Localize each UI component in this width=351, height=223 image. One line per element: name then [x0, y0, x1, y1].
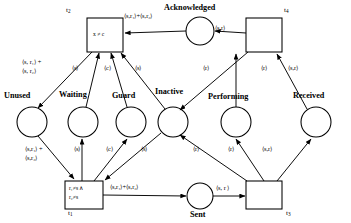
arc-t1-sent: [103, 195, 186, 196]
place-label-received: Received: [293, 92, 324, 101]
arc-label-t2-unused-line1: ⟨s, r₁⟩ +: [22, 59, 41, 66]
transition-inscription-t2: x ≠ c: [93, 31, 104, 38]
transition-name-t1: t1: [68, 210, 73, 218]
arc-label-t1-waiting: ⟨s⟩: [74, 146, 81, 153]
arc-label-waiting-t2: ⟨s⟩: [72, 65, 79, 72]
diagram-canvas: [0, 0, 351, 223]
place-label-performing: Performing: [208, 93, 248, 102]
transition-t4: [246, 18, 282, 52]
arc-label-guard-t2: ⟨c⟩: [104, 65, 111, 72]
arc-label-sent-t3: ⟨s, r ⟩: [216, 185, 229, 192]
arc-label-received-t4: ⟨s,r⟩: [288, 65, 298, 72]
arc-unused-t1: [38, 136, 74, 179]
arc-label-inactive-t1: ⟨s⟩: [141, 146, 148, 153]
arc-t3-received: [277, 139, 311, 181]
place-label-inactive: Inactive: [155, 88, 183, 97]
transition-inscription-t1-line1: r₁≠s ∧: [69, 185, 83, 192]
transition-name-t2: t2: [66, 7, 71, 15]
arc-label-t3-received: ⟨s,r⟩: [262, 146, 272, 153]
place-sent: [187, 183, 213, 209]
transition-name-t3: t3: [286, 210, 291, 218]
arc-label-t4-acknowledged: ⟨s,r⟩: [215, 25, 225, 32]
arc-acknowledged-t2: [125, 31, 186, 33]
place-label-sent: Sent: [190, 211, 205, 220]
transition-t3: [246, 181, 282, 209]
place-guard: [116, 107, 146, 137]
arc-label-unused-t1-line2: ⟨s,r₂⟩: [25, 155, 37, 162]
place-label-unused: Unused: [4, 92, 30, 101]
place-label-waiting: Waiting: [59, 91, 87, 100]
arc-t3-inactive: [180, 135, 247, 181]
arc-label-t3-performing: ⟨r⟩: [228, 146, 234, 153]
place-label-acknowledged: Acknowledged: [164, 4, 215, 13]
place-performing: [221, 107, 251, 137]
transition-name-t4: t4: [284, 7, 289, 15]
petri-net-diagram: Unused Waiting Guard Inactive Acknowledg…: [0, 0, 351, 223]
place-inactive: [158, 107, 188, 137]
place-acknowledged: [186, 17, 214, 45]
arc-label-t1-sent: ⟨s,r₁⟩+⟨s,r₂⟩: [110, 184, 139, 191]
arc-label-performing-t4: ⟨r⟩: [261, 65, 267, 72]
place-waiting: [68, 107, 98, 137]
arc-received-t4: [277, 54, 307, 109]
arc-t3-performing: [236, 139, 264, 181]
arc-label-t3-inactive: ⟨r⟩: [193, 146, 199, 153]
place-label-guard: Guard: [112, 92, 135, 101]
arc-label-acknowledged-t2: ⟨s,r₁⟩+⟨s,r₂⟩: [124, 13, 153, 20]
arc-label-t4-inactive: ⟨r⟩: [203, 65, 209, 72]
transition-inscription-t1-line2: r₂≠s: [69, 194, 78, 201]
place-unused: [17, 107, 47, 137]
arc-label-t2-unused-line2: ⟨s, r₂⟩: [22, 68, 36, 75]
arc-label-unused-t1-line1: ⟨s,r₁⟩ +: [25, 146, 43, 153]
arc-label-t1-guard: ⟨c⟩: [106, 146, 113, 153]
place-received: [301, 107, 331, 137]
arc-waiting-t2: [86, 53, 99, 107]
arc-label-inactive-t2: ⟨s⟩: [135, 65, 142, 72]
